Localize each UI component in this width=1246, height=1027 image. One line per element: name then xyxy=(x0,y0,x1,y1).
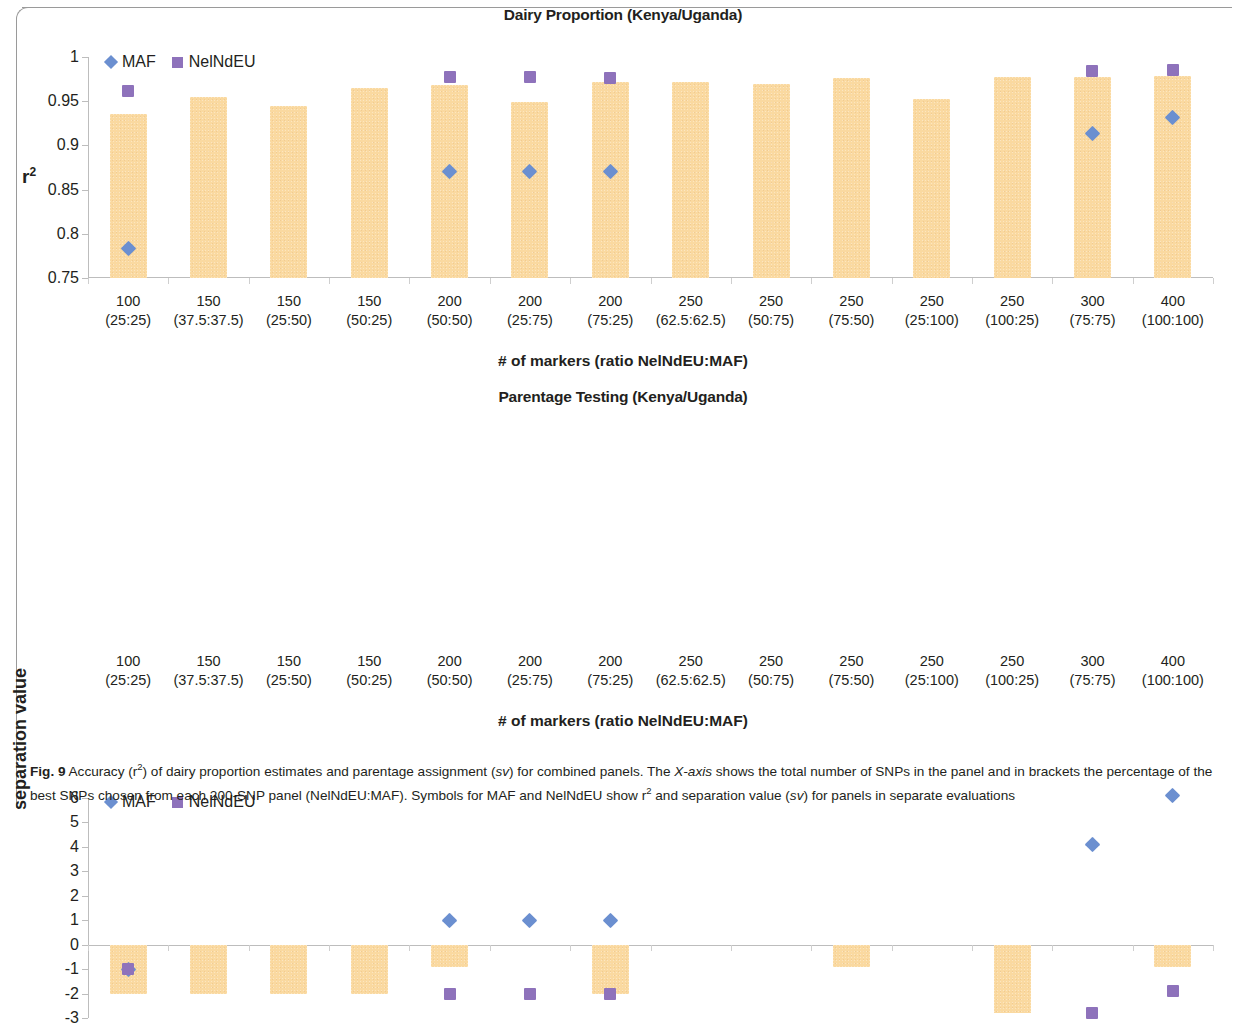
caption-p6: ) for panels in separate evaluations xyxy=(803,788,1015,803)
category-ratio: (100:100) xyxy=(1133,311,1213,330)
bar xyxy=(994,945,1031,1013)
data-point-nelndeu xyxy=(524,988,536,1000)
category-ratio: (62.5:62.5) xyxy=(651,671,731,690)
y-tick xyxy=(82,847,88,848)
figure-9: Dairy Proportion (Kenya/Uganda) 0.750.80… xyxy=(0,0,1246,745)
y-tick xyxy=(82,57,88,58)
category-ratio: (25:25) xyxy=(88,671,168,690)
category-ratio: (25:50) xyxy=(249,671,329,690)
data-point-maf xyxy=(522,912,538,928)
chart-dairy-proportion: Dairy Proportion (Kenya/Uganda) 0.750.80… xyxy=(0,0,1246,380)
y-tick-label: 0.75 xyxy=(48,269,79,287)
bar xyxy=(270,945,307,994)
y-tick-label: 2 xyxy=(70,887,79,905)
plot-area-dairy: 0.750.80.850.90.951 MAF NelNdEU xyxy=(88,57,1213,278)
y-tick xyxy=(82,234,88,235)
category-ratio: (75:25) xyxy=(570,671,650,690)
x-tick xyxy=(1213,945,1214,951)
x-category-label: 150(25:50) xyxy=(249,292,329,330)
category-ratio: (75:75) xyxy=(1052,671,1132,690)
category-ratio: (25:25) xyxy=(88,311,168,330)
category-ratio: (25:75) xyxy=(490,311,570,330)
category-count: 200 xyxy=(570,292,650,311)
x-category-label: 250(25:100) xyxy=(892,292,972,330)
y-axis-parentage xyxy=(88,798,89,1018)
y-tick-label: 0 xyxy=(70,936,79,954)
x-tick xyxy=(892,945,893,951)
data-point-nelndeu xyxy=(444,71,456,83)
data-point-nelndeu xyxy=(122,85,134,97)
category-count: 400 xyxy=(1133,292,1213,311)
x-category-labels-dairy: 100(25:25)150(37.5:37.5)150(25:50)150(50… xyxy=(88,292,1213,330)
x-tick xyxy=(168,945,169,951)
x-tick xyxy=(972,278,973,284)
category-ratio: (25:100) xyxy=(892,671,972,690)
bar xyxy=(190,97,227,278)
category-ratio: (100:100) xyxy=(1133,671,1213,690)
category-ratio: (50:25) xyxy=(329,311,409,330)
y-tick-label: 4 xyxy=(70,838,79,856)
category-count: 250 xyxy=(811,652,891,671)
category-ratio: (62.5:62.5) xyxy=(651,311,731,330)
category-ratio: (50:25) xyxy=(329,671,409,690)
category-count: 100 xyxy=(88,292,168,311)
x-tick xyxy=(892,278,893,284)
data-point-maf xyxy=(603,912,619,928)
bar xyxy=(190,945,227,994)
x-category-label: 150(37.5:37.5) xyxy=(168,292,248,330)
x-tick xyxy=(1133,945,1134,951)
bar xyxy=(753,84,790,278)
y-tick xyxy=(82,871,88,872)
category-count: 300 xyxy=(1052,652,1132,671)
x-tick xyxy=(329,278,330,284)
bar xyxy=(1074,77,1111,278)
x-category-label: 250(75:50) xyxy=(811,292,891,330)
x-category-label: 400(100:100) xyxy=(1133,652,1213,690)
x-tick xyxy=(570,945,571,951)
category-count: 400 xyxy=(1133,652,1213,671)
x-tick xyxy=(972,945,973,951)
y-axis-dairy xyxy=(88,57,89,278)
x-category-label: 150(37.5:37.5) xyxy=(168,652,248,690)
plot-area-parentage: -3-2-10123456 MAF NelNdEU xyxy=(88,798,1213,1018)
bar xyxy=(351,88,388,278)
y-tick-label: 3 xyxy=(70,862,79,880)
x-tick xyxy=(651,945,652,951)
category-count: 200 xyxy=(409,292,489,311)
figure-label: Fig. 9 xyxy=(30,764,66,779)
x-tick xyxy=(88,945,89,951)
category-ratio: (100:25) xyxy=(972,311,1052,330)
category-count: 150 xyxy=(249,292,329,311)
category-count: 250 xyxy=(811,292,891,311)
bar xyxy=(270,106,307,278)
x-category-label: 250(25:100) xyxy=(892,652,972,690)
y-axis-title-dairy: r2 xyxy=(22,165,36,188)
x-category-label: 200(75:25) xyxy=(570,652,650,690)
caption-p5: and separation value ( xyxy=(652,788,790,803)
legend-label-maf: MAF xyxy=(122,53,156,71)
x-tick xyxy=(1213,278,1214,284)
x-category-labels-parentage: 100(25:25)150(37.5:37.5)150(25:50)150(50… xyxy=(88,652,1213,690)
x-category-label: 250(75:50) xyxy=(811,652,891,690)
y-tick xyxy=(82,1018,88,1019)
x-category-label: 150(50:25) xyxy=(329,292,409,330)
x-tick xyxy=(811,278,812,284)
category-count: 250 xyxy=(972,292,1052,311)
y-tick-label: 1 xyxy=(70,911,79,929)
y-tick-label: 5 xyxy=(70,813,79,831)
category-ratio: (25:75) xyxy=(490,671,570,690)
y-tick-label: 0.85 xyxy=(48,181,79,199)
category-ratio: (50:50) xyxy=(409,671,489,690)
bar xyxy=(431,85,468,278)
x-tick xyxy=(168,278,169,284)
x-tick xyxy=(731,945,732,951)
chart-title-dairy: Dairy Proportion (Kenya/Uganda) xyxy=(0,6,1246,24)
x-tick xyxy=(811,945,812,951)
chart-title-parentage: Parentage Testing (Kenya/Uganda) xyxy=(0,388,1246,406)
category-ratio: (100:25) xyxy=(972,671,1052,690)
bar xyxy=(592,945,629,994)
y-tick xyxy=(82,101,88,102)
x-tick xyxy=(329,945,330,951)
category-count: 200 xyxy=(490,652,570,671)
x-tick xyxy=(570,278,571,284)
